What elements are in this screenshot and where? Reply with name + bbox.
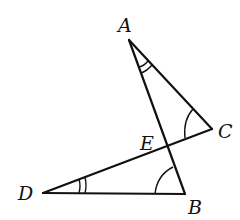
angle-a-arc-1	[139, 61, 148, 67]
angle-d-arc-2	[85, 177, 86, 193]
segment-ab	[129, 40, 185, 194]
segment-dc	[43, 129, 212, 193]
label-c: C	[218, 120, 233, 142]
segment-db	[43, 193, 185, 194]
label-d: D	[17, 182, 33, 204]
angle-d-arc-1	[79, 179, 80, 193]
segment-ac	[129, 40, 212, 129]
label-e: E	[139, 132, 154, 154]
angle-b-arc	[155, 167, 173, 194]
label-b: B	[187, 196, 202, 218]
geometry-diagram: A B C D E	[0, 0, 240, 220]
label-a: A	[116, 14, 132, 36]
angle-c-arc	[185, 109, 193, 138]
